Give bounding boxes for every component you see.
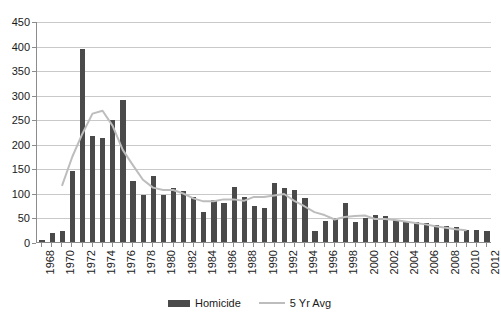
y-tick-label: 400 bbox=[12, 41, 30, 52]
x-axis: 1968197019721974197619781980198219841986… bbox=[36, 243, 491, 293]
avg-line-path bbox=[62, 111, 466, 231]
x-tick-mark bbox=[213, 243, 214, 247]
x-tick-mark bbox=[334, 243, 335, 247]
x-tick-mark bbox=[395, 243, 396, 247]
x-tick-mark bbox=[82, 243, 83, 247]
x-tick-mark bbox=[486, 243, 487, 247]
x-tick-mark bbox=[142, 243, 143, 247]
x-tick-label: 2004 bbox=[409, 250, 420, 274]
x-tick-mark bbox=[122, 243, 123, 247]
legend-label-homicide: Homicide bbox=[195, 297, 241, 309]
x-tick-label: 1968 bbox=[45, 250, 56, 274]
y-tick-label: 200 bbox=[12, 139, 30, 150]
bar-swatch-icon bbox=[168, 300, 190, 307]
x-tick-mark bbox=[243, 243, 244, 247]
x-tick-mark bbox=[193, 243, 194, 247]
x-tick-label: 1988 bbox=[247, 250, 258, 274]
x-tick-label: 1976 bbox=[126, 250, 137, 274]
x-tick-mark bbox=[435, 243, 436, 247]
x-tick-mark bbox=[365, 243, 366, 247]
x-tick-mark bbox=[61, 243, 62, 247]
x-tick-label: 2010 bbox=[470, 250, 481, 274]
y-tick-label: 150 bbox=[12, 164, 30, 175]
x-tick-mark bbox=[375, 243, 376, 247]
x-tick-label: 1978 bbox=[146, 250, 157, 274]
x-tick-mark bbox=[355, 243, 356, 247]
y-tick-label: 100 bbox=[12, 188, 30, 199]
x-tick-mark bbox=[41, 243, 42, 247]
x-tick-label: 1994 bbox=[308, 250, 319, 274]
x-tick-label: 1972 bbox=[86, 250, 97, 274]
x-tick-label: 1984 bbox=[207, 250, 218, 274]
x-tick-label: 1970 bbox=[65, 250, 76, 274]
y-axis: 050100150200250300350400450 bbox=[0, 22, 36, 243]
x-tick-mark bbox=[102, 243, 103, 247]
x-tick-label: 2002 bbox=[389, 250, 400, 274]
x-tick-mark bbox=[294, 243, 295, 247]
x-tick-mark bbox=[264, 243, 265, 247]
y-tick-label: 50 bbox=[18, 213, 30, 224]
plot-area bbox=[36, 22, 491, 243]
y-tick-label: 350 bbox=[12, 66, 30, 77]
line-swatch-icon bbox=[259, 302, 285, 304]
x-tick-label: 1998 bbox=[348, 250, 359, 274]
legend-item-homicide: Homicide bbox=[168, 297, 241, 309]
x-tick-mark bbox=[51, 243, 52, 247]
chart-legend: Homicide 5 Yr Avg bbox=[0, 297, 499, 309]
x-tick-mark bbox=[152, 243, 153, 247]
y-tick-label: 250 bbox=[12, 115, 30, 126]
legend-label-5-yr-avg: 5 Yr Avg bbox=[290, 297, 331, 309]
x-tick-mark bbox=[446, 243, 447, 247]
x-tick-label: 2000 bbox=[369, 250, 380, 274]
x-tick-mark bbox=[71, 243, 72, 247]
x-tick-mark bbox=[425, 243, 426, 247]
x-tick-label: 1986 bbox=[227, 250, 238, 274]
x-tick-mark bbox=[223, 243, 224, 247]
x-tick-mark bbox=[132, 243, 133, 247]
x-tick-mark bbox=[314, 243, 315, 247]
x-tick-mark bbox=[466, 243, 467, 247]
x-tick-mark bbox=[253, 243, 254, 247]
x-tick-label: 1980 bbox=[166, 250, 177, 274]
x-tick-mark bbox=[162, 243, 163, 247]
x-tick-mark bbox=[233, 243, 234, 247]
x-tick-label: 1996 bbox=[328, 250, 339, 274]
x-tick-mark bbox=[415, 243, 416, 247]
x-tick-mark bbox=[203, 243, 204, 247]
x-tick-mark bbox=[183, 243, 184, 247]
x-tick-label: 2012 bbox=[490, 250, 501, 274]
x-tick-label: 2008 bbox=[450, 250, 461, 274]
x-tick-mark bbox=[456, 243, 457, 247]
x-tick-mark bbox=[476, 243, 477, 247]
x-tick-label: 1992 bbox=[288, 250, 299, 274]
x-tick-mark bbox=[324, 243, 325, 247]
x-tick-mark bbox=[344, 243, 345, 247]
y-tick-label: 300 bbox=[12, 90, 30, 101]
x-tick-label: 1982 bbox=[187, 250, 198, 274]
x-tick-mark bbox=[92, 243, 93, 247]
x-tick-mark bbox=[173, 243, 174, 247]
x-tick-label: 1990 bbox=[268, 250, 279, 274]
y-tick-label: 450 bbox=[12, 17, 30, 28]
x-tick-label: 1974 bbox=[106, 250, 117, 274]
x-tick-mark bbox=[274, 243, 275, 247]
x-tick-mark bbox=[385, 243, 386, 247]
x-tick-mark bbox=[405, 243, 406, 247]
x-tick-mark bbox=[284, 243, 285, 247]
x-tick-label: 2006 bbox=[429, 250, 440, 274]
x-tick-mark bbox=[112, 243, 113, 247]
avg-line-layer bbox=[37, 22, 491, 243]
legend-item-5-yr-avg: 5 Yr Avg bbox=[259, 297, 331, 309]
x-tick-mark bbox=[304, 243, 305, 247]
y-tick-label: 0 bbox=[24, 238, 30, 249]
